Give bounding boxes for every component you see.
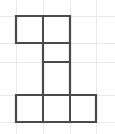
- cell-r3c0: [16, 95, 43, 122]
- polyomino-figure: [0, 0, 115, 134]
- shape-cell-fills: [16, 16, 96, 122]
- cell-r0c1: [43, 16, 70, 43]
- figure-canvas: [0, 0, 115, 134]
- cell-r0c0: [16, 16, 43, 43]
- cell-r2c1: [43, 62, 70, 95]
- cell-r3c1: [43, 95, 70, 122]
- cell-r1c1: [43, 43, 70, 62]
- cell-r3c2: [70, 95, 96, 122]
